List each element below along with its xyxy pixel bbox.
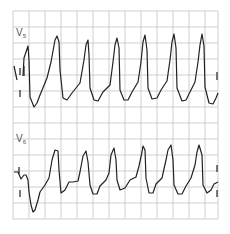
lead-label-v5: V5 (16, 27, 27, 39)
lead-label-v6: V6 (16, 133, 27, 145)
ecg-figure: V5 V6 (0, 0, 230, 234)
